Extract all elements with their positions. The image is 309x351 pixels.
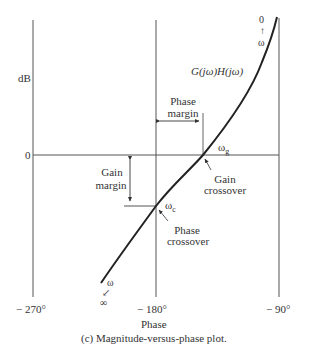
gain-crossover-label-2: crossover [195, 184, 255, 196]
figure-caption: (c) Magnitude-versus-phase plot. [81, 332, 227, 344]
plot-canvas [0, 0, 309, 351]
magnitude-phase-plot: dB 0 0 ↑ ω G(jω)H(jω) Phase margin ωg Ga… [0, 0, 309, 351]
gain-crossover-pointer [205, 159, 211, 170]
gain-margin-label-1: Gain [95, 166, 129, 178]
x-tick-minus-270: − 270° [16, 303, 46, 315]
omega-c-label: ωc [165, 199, 176, 216]
zero-db-label: 0 [25, 149, 31, 161]
gain-margin-label-2: margin [91, 179, 131, 191]
omega-c-subscript: c [172, 205, 176, 214]
x-axis-label: Phase [141, 318, 167, 330]
phase-margin-label-1: Phase [163, 95, 203, 107]
curve-end-infinity: ∞ [100, 297, 107, 309]
curve-start-omega: ω [258, 37, 265, 49]
omega-g-label: ωg [218, 141, 229, 158]
phase-crossover-label-2: crossover [162, 235, 214, 247]
phase-margin-label-2: margin [163, 107, 203, 119]
omega-g-subscript: g [225, 147, 229, 156]
x-tick-minus-90: − 90° [266, 303, 290, 315]
x-tick-minus-180: − 180° [137, 303, 167, 315]
curve-start-arrow: ↑ [260, 25, 265, 37]
y-axis-label: dB [18, 72, 31, 84]
curve-label: G(jω)H(jω) [191, 65, 243, 77]
